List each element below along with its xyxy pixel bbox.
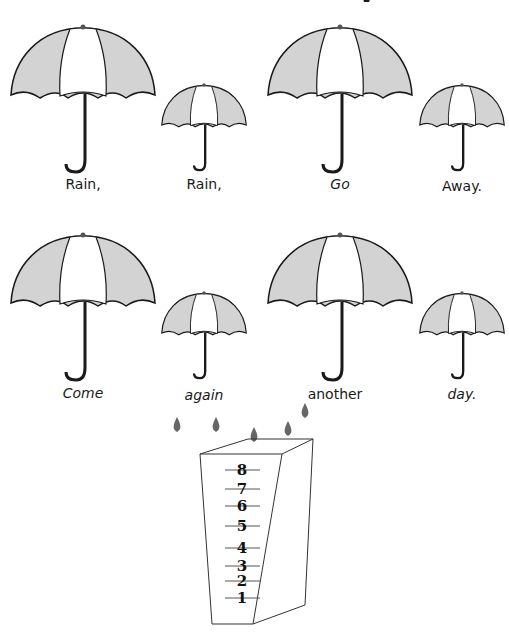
umbrella-icon — [418, 288, 506, 378]
umbrella-small-4 — [418, 288, 506, 378]
scale-label: 1 — [237, 589, 247, 607]
umbrella-icon — [265, 228, 415, 378]
gauge-outline — [200, 439, 313, 624]
umbrella-icon — [8, 228, 158, 378]
umbrella-small-2 — [418, 80, 506, 170]
umbrella-large-1 — [8, 20, 158, 170]
raindrop-icons — [174, 403, 309, 442]
scale-label: 5 — [237, 517, 247, 535]
umbrella-icon — [8, 20, 158, 170]
scale-label: 4 — [237, 539, 247, 557]
umbrella-icon — [265, 20, 415, 170]
scale-label: 7 — [237, 480, 247, 498]
umbrella-small-3 — [160, 288, 248, 378]
word-label: Rain, — [8, 176, 158, 192]
umbrella-large-2 — [265, 20, 415, 170]
umbrella-icon — [160, 80, 248, 170]
rain-gauge: 8 7 6 5 4 3 2 1 — [170, 395, 320, 635]
word-label: Come — [8, 385, 158, 401]
word-label: Go — [265, 176, 415, 192]
title-fragment — [360, 0, 374, 4]
scale-label: 2 — [237, 572, 247, 590]
word-label: Rain, — [160, 176, 248, 192]
word-label: Away. — [418, 178, 506, 194]
scale-label: 6 — [237, 497, 247, 515]
umbrella-large-4 — [265, 228, 415, 378]
umbrella-small-1 — [160, 80, 248, 170]
scale-label: 8 — [237, 461, 247, 479]
umbrella-icon — [418, 80, 506, 170]
word-label: day. — [418, 386, 506, 402]
umbrella-large-3 — [8, 228, 158, 378]
umbrella-icon — [160, 288, 248, 378]
